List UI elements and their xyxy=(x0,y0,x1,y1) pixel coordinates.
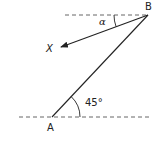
angle-label-45: 45° xyxy=(85,97,103,108)
angle-arc-alpha xyxy=(114,15,116,27)
angle-arc-45 xyxy=(71,97,80,117)
point-label-X: X xyxy=(45,43,54,54)
point-label-A: A xyxy=(47,122,54,133)
angle-label-alpha: α xyxy=(99,16,106,27)
geometry-diagram: B A X 45° α xyxy=(0,0,160,144)
point-label-B: B xyxy=(145,1,152,12)
